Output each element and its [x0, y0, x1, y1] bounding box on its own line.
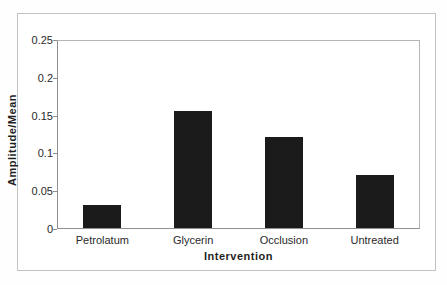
- chart-canvas: Amplitude/Mean 00.050.10.150.20.25 Petro…: [0, 0, 447, 285]
- x-tick-label: Occlusion: [239, 234, 330, 246]
- x-axis-title: Intervention: [57, 250, 420, 262]
- y-tick-mark: [53, 229, 57, 230]
- y-tick-mark: [53, 40, 57, 41]
- bar-occlusion: [265, 137, 303, 228]
- y-tick-label: 0.2: [19, 73, 53, 84]
- y-tick-label: 0: [19, 224, 53, 235]
- bar-untreated: [356, 175, 394, 228]
- x-tick-label: Untreated: [329, 234, 420, 246]
- y-tick-label: 0.1: [19, 148, 53, 159]
- y-tick-mark: [53, 116, 57, 117]
- bar-glycerin: [174, 111, 212, 228]
- x-tick-label: Glycerin: [148, 234, 239, 246]
- bar-petrolatum: [83, 205, 121, 228]
- y-tick-mark: [53, 191, 57, 192]
- y-tick-mark: [53, 153, 57, 154]
- y-axis-title: Amplitude/Mean: [6, 85, 18, 195]
- y-tick-mark: [53, 78, 57, 79]
- x-tick-label: Petrolatum: [57, 234, 148, 246]
- plot-area: [57, 40, 420, 229]
- y-tick-label: 0.25: [19, 35, 53, 46]
- y-tick-label: 0.05: [19, 186, 53, 197]
- y-tick-label: 0.15: [19, 111, 53, 122]
